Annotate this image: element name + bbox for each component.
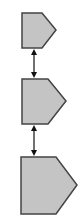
pentagon-node-2 (22, 79, 66, 124)
diagram-canvas (0, 0, 81, 224)
pentagon-node-1 (22, 13, 56, 48)
pentagon-node-3 (21, 157, 77, 214)
